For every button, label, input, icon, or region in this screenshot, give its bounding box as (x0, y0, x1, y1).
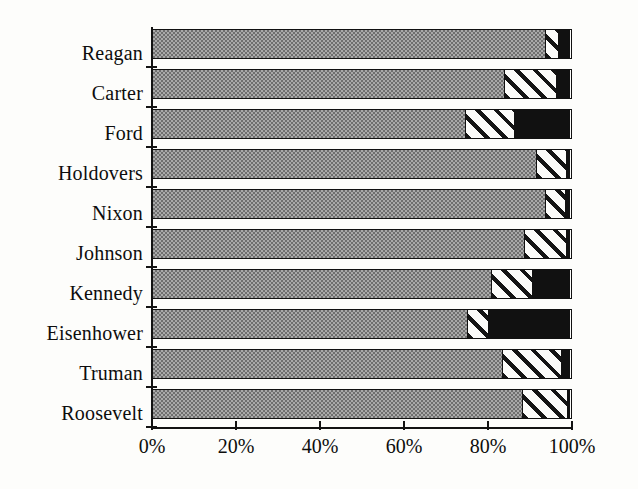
x-tick (235, 421, 237, 430)
y-tick (146, 106, 157, 108)
bar-kennedy (152, 269, 572, 299)
bar-segment-1 (153, 110, 466, 138)
bar-segment-3 (558, 30, 570, 58)
bar-segment-3 (566, 230, 570, 258)
bar-segment-3 (567, 390, 570, 418)
y-axis-label-holdovers: Holdovers (3, 162, 143, 185)
y-tick (146, 386, 157, 388)
bar-segment-3 (561, 350, 570, 378)
y-tick (146, 66, 157, 68)
stacked-bar (152, 29, 572, 59)
x-axis-label-60pct: 60% (386, 435, 423, 458)
x-tick (319, 421, 321, 430)
y-tick (146, 346, 157, 348)
y-axis-label-johnson: Johnson (3, 242, 143, 265)
bar-segment-3 (566, 150, 570, 178)
bar-segment-3 (514, 110, 570, 138)
y-axis-label-wrap: Eisenhower (0, 322, 143, 348)
y-tick (146, 226, 157, 228)
bar-segment-1 (153, 390, 522, 418)
bar-holdovers (152, 149, 572, 179)
y-tick (146, 266, 157, 268)
stacked-bar-chart: ReaganCarterFordHoldoversNixonJohnsonKen… (0, 0, 638, 489)
bar-segment-2 (524, 230, 567, 258)
y-axis-label-wrap: Carter (0, 82, 143, 108)
stacked-bar (152, 389, 572, 419)
bar-segment-1 (153, 270, 492, 298)
stacked-bar (152, 349, 572, 379)
bar-segment-1 (153, 30, 545, 58)
bar-segment-2 (545, 190, 565, 218)
bar-segment-1 (153, 150, 536, 178)
bar-segment-2 (491, 270, 532, 298)
y-axis-label-reagan: Reagan (3, 42, 143, 65)
bar-segment-2 (465, 110, 515, 138)
y-axis-label-kennedy: Kennedy (3, 282, 143, 305)
x-axis-label-100pct: 100% (549, 435, 596, 458)
bar-carter (152, 69, 572, 99)
stacked-bar (152, 149, 572, 179)
bar-segment-1 (153, 350, 502, 378)
stacked-bar (152, 109, 572, 139)
y-axis-label-truman: Truman (3, 362, 143, 385)
x-axis-label-80pct: 80% (470, 435, 507, 458)
y-axis-label-nixon: Nixon (3, 202, 143, 225)
bar-segment-1 (153, 70, 504, 98)
bar-segment-2 (522, 390, 568, 418)
bar-reagan (152, 29, 572, 59)
y-axis-label-ford: Ford (3, 122, 143, 145)
y-axis-label-wrap: Truman (0, 362, 143, 388)
stacked-bar (152, 229, 572, 259)
stacked-bar (152, 309, 572, 339)
bar-segment-2 (504, 70, 557, 98)
stacked-bar (152, 269, 572, 299)
x-axis-label-40pct: 40% (302, 435, 339, 458)
y-axis-label-roosevelt: Roosevelt (3, 402, 143, 425)
stacked-bar (152, 69, 572, 99)
y-axis-label-wrap: Reagan (0, 42, 143, 68)
y-axis-label-carter: Carter (3, 82, 143, 105)
bar-segment-3 (565, 190, 570, 218)
y-axis-label-wrap: Ford (0, 122, 143, 148)
plot-area (152, 28, 572, 428)
bar-segment-1 (153, 190, 546, 218)
bar-segment-2 (536, 150, 567, 178)
y-axis-label-eisenhower: Eisenhower (3, 322, 143, 345)
bar-segment-3 (556, 70, 570, 98)
x-axis-label-20pct: 20% (218, 435, 255, 458)
bar-ford (152, 109, 572, 139)
y-axis-label-wrap: Kennedy (0, 282, 143, 308)
x-tick (403, 421, 405, 430)
bar-segment-2 (502, 350, 562, 378)
bar-segment-1 (153, 230, 524, 258)
bar-segment-3 (532, 270, 570, 298)
bar-nixon (152, 189, 572, 219)
y-axis-label-wrap: Roosevelt (0, 402, 143, 428)
y-axis-label-wrap: Holdovers (0, 162, 143, 188)
bar-truman (152, 349, 572, 379)
stacked-bar (152, 189, 572, 219)
x-tick (151, 421, 153, 430)
bar-segment-2 (545, 30, 559, 58)
x-tick (571, 421, 573, 430)
x-tick (487, 421, 489, 430)
x-axis-label-0pct: 0% (139, 435, 166, 458)
bar-segment-3 (488, 310, 570, 338)
bar-johnson (152, 229, 572, 259)
bar-roosevelt (152, 389, 572, 419)
y-axis-label-wrap: Johnson (0, 242, 143, 268)
bar-segment-2 (467, 310, 489, 338)
y-tick (146, 146, 157, 148)
bar-eisenhower (152, 309, 572, 339)
y-axis-label-wrap: Nixon (0, 202, 143, 228)
y-tick (146, 186, 157, 188)
bar-segment-1 (153, 310, 467, 338)
y-tick (146, 306, 157, 308)
